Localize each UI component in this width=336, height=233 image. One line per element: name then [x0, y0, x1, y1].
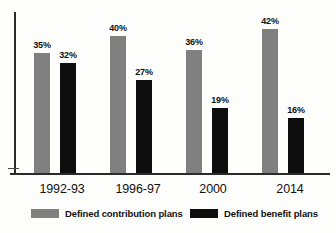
- bar-group-2014: 42% 16%: [262, 12, 324, 173]
- bar-group-1996-97: 40% 27%: [110, 12, 172, 173]
- bar-defined-benefit[interactable]: [60, 63, 76, 173]
- legend-item-defined-contribution[interactable]: Defined contribution plans: [31, 208, 183, 219]
- bar-group-1992-93: 35% 32%: [34, 12, 96, 173]
- x-axis-line: [10, 173, 330, 175]
- x-label-2000: 2000: [199, 181, 226, 197]
- bar-defined-contribution[interactable]: [262, 29, 278, 173]
- x-axis-category-labels: 1992-93 1996-97 2000 2014: [0, 181, 336, 199]
- bar-value-label: 19%: [211, 95, 228, 105]
- legend-item-defined-benefit[interactable]: Defined benefit plans: [190, 208, 318, 219]
- x-label-1996-97: 1996-97: [115, 181, 160, 197]
- bar-value-label: 42%: [261, 16, 278, 26]
- legend-swatch-icon: [190, 209, 218, 218]
- bar-defined-benefit[interactable]: [288, 118, 304, 173]
- bar-value-label: 40%: [109, 23, 126, 33]
- bar-value-label: 36%: [185, 37, 202, 47]
- bar-defined-benefit[interactable]: [136, 80, 152, 173]
- bar-value-label: 16%: [287, 105, 304, 115]
- bar-defined-contribution[interactable]: [110, 36, 126, 173]
- legend-label: Defined benefit plans: [224, 208, 318, 219]
- bar-defined-contribution[interactable]: [34, 53, 50, 173]
- x-label-2014: 2014: [276, 181, 303, 197]
- legend-label: Defined contribution plans: [65, 208, 183, 219]
- bar-defined-benefit[interactable]: [212, 108, 228, 173]
- bar-value-label: 35%: [33, 40, 50, 50]
- x-label-1992-93: 1992-93: [39, 181, 84, 197]
- plot-area: 35% 32% 40% 27% 36%: [16, 12, 332, 173]
- bar-value-label: 32%: [59, 50, 76, 60]
- chart-legend: Defined contribution plans Defined benef…: [0, 208, 336, 226]
- bar-value-label: 27%: [135, 67, 152, 77]
- bar-group-2000: 36% 19%: [186, 12, 248, 173]
- legend-swatch-icon: [31, 209, 59, 218]
- bar-chart: 35% 32% 40% 27% 36%: [0, 0, 336, 233]
- bar-defined-contribution[interactable]: [186, 50, 202, 173]
